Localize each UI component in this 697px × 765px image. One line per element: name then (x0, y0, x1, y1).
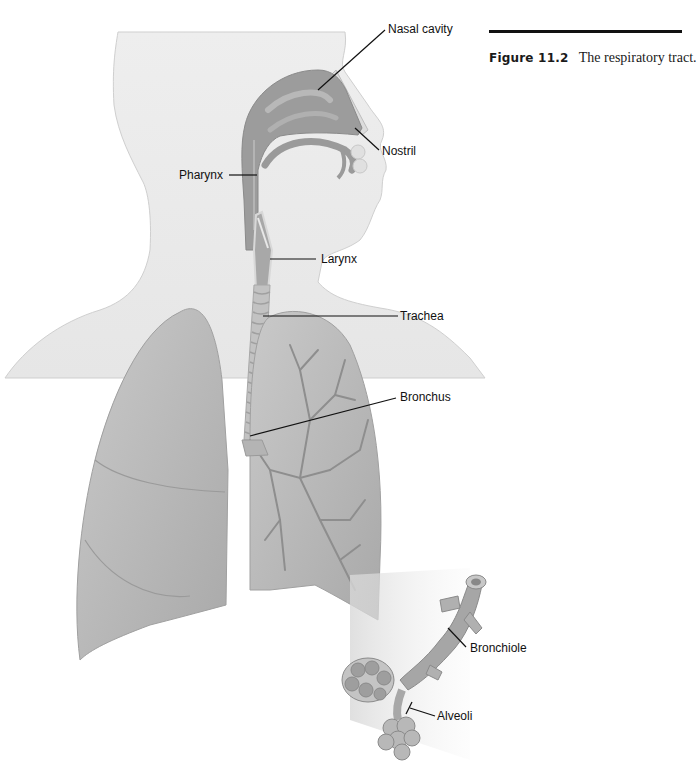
label-pharynx: Pharynx (179, 168, 223, 182)
label-bronchiole: Bronchiole (470, 641, 527, 655)
label-trachea: Trachea (400, 309, 444, 323)
label-nasal-cavity: Nasal cavity (388, 22, 453, 36)
figure-number: Figure 11.2 (489, 51, 569, 65)
caption-rule (489, 30, 682, 33)
figure-caption-text: The respiratory tract. (579, 50, 697, 65)
label-bronchus: Bronchus (400, 390, 451, 404)
figure-caption: Figure 11.2 The respiratory tract. (489, 50, 697, 66)
label-alveoli: Alveoli (437, 709, 472, 723)
label-nostril: Nostril (382, 144, 416, 158)
label-larynx: Larynx (321, 252, 357, 266)
